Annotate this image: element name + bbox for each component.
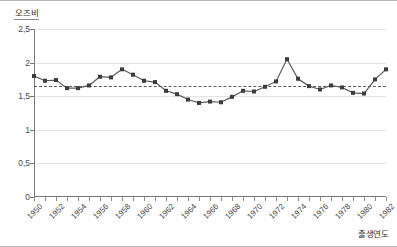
x-tick-mark (100, 197, 101, 201)
x-tick-label: 1952 (47, 202, 66, 221)
data-point-marker (98, 75, 102, 79)
y-tick-label: 2 (25, 58, 30, 68)
x-tick-label: 1962 (157, 202, 176, 221)
x-tick-label: 1968 (223, 202, 242, 221)
x-tick-mark (298, 197, 299, 201)
plot-area: 00,511,522,5 195019521954195619581960196… (34, 29, 386, 197)
data-point-marker (186, 98, 190, 102)
x-tick-mark (56, 197, 57, 201)
x-tick-label: 1960 (135, 202, 154, 221)
x-tick-mark (309, 197, 310, 201)
chart-figure: 오즈비 출생연도 00,511,522,5 195019521954195619… (0, 0, 397, 247)
data-point-marker (54, 78, 58, 82)
x-tick-label: 1972 (267, 202, 286, 221)
x-tick-mark (221, 197, 222, 201)
x-tick-mark (89, 197, 90, 201)
x-tick-mark (353, 197, 354, 201)
data-point-marker (131, 73, 135, 77)
x-tick-mark (320, 197, 321, 201)
data-point-marker (373, 77, 377, 81)
data-point-marker (329, 83, 333, 87)
x-tick-mark (210, 197, 211, 201)
x-tick-mark (188, 197, 189, 201)
x-tick-mark (133, 197, 134, 201)
x-axis-title: 출생연도 (358, 227, 389, 239)
x-tick-mark (331, 197, 332, 201)
y-tick-label: 2,5 (18, 24, 30, 34)
data-point-marker (307, 84, 311, 88)
x-tick-mark (287, 197, 288, 201)
x-tick-label: 1978 (333, 202, 352, 221)
data-point-marker (318, 87, 322, 91)
x-tick-mark (342, 197, 343, 201)
data-series (34, 29, 386, 197)
x-tick-label: 1976 (311, 202, 330, 221)
data-point-marker (120, 67, 124, 71)
x-tick-mark (34, 197, 35, 201)
data-point-marker (351, 91, 355, 95)
x-tick-label: 1966 (201, 202, 220, 221)
x-tick-mark (67, 197, 68, 201)
data-point-marker (87, 83, 91, 87)
x-tick-mark (122, 197, 123, 201)
data-point-marker (274, 79, 278, 83)
x-tick-mark (232, 197, 233, 201)
data-point-marker (142, 79, 146, 83)
data-point-marker (241, 89, 245, 93)
data-point-marker (219, 100, 223, 104)
data-point-marker (197, 101, 201, 105)
x-tick-label: 1956 (91, 202, 110, 221)
data-point-marker (175, 92, 179, 96)
y-tick-label: 1,5 (18, 91, 30, 101)
data-point-marker (384, 67, 388, 71)
x-tick-mark (243, 197, 244, 201)
x-tick-label: 1958 (113, 202, 132, 221)
x-tick-mark (78, 197, 79, 201)
data-point-marker (340, 85, 344, 89)
data-point-marker (208, 100, 212, 104)
x-tick-mark (364, 197, 365, 201)
x-tick-label: 1982 (377, 202, 396, 221)
data-point-marker (65, 86, 69, 90)
data-point-marker (285, 57, 289, 61)
data-point-marker (153, 80, 157, 84)
x-tick-mark (386, 197, 387, 201)
x-tick-label: 1974 (289, 202, 308, 221)
data-point-marker (32, 74, 36, 78)
data-point-marker (296, 77, 300, 81)
x-tick-mark (166, 197, 167, 201)
x-tick-label: 1954 (69, 202, 88, 221)
data-point-marker (76, 86, 80, 90)
x-tick-label: 1980 (355, 202, 374, 221)
data-point-marker (109, 75, 113, 79)
data-point-marker (164, 89, 168, 93)
series-line (34, 59, 386, 103)
x-tick-mark (199, 197, 200, 201)
x-tick-label: 1950 (25, 202, 44, 221)
x-tick-mark (265, 197, 266, 201)
x-tick-mark (276, 197, 277, 201)
y-axis-title: 오즈비 (14, 8, 39, 20)
x-tick-mark (375, 197, 376, 201)
data-point-marker (43, 79, 47, 83)
x-tick-mark (144, 197, 145, 201)
y-tick-label: 0,5 (18, 158, 30, 168)
data-point-marker (230, 95, 234, 99)
data-point-marker (362, 92, 366, 96)
x-tick-label: 1964 (179, 202, 198, 221)
x-tick-mark (254, 197, 255, 201)
x-tick-label: 1970 (245, 202, 264, 221)
y-tick-label: 0 (25, 192, 30, 202)
y-tick-label: 1 (25, 125, 30, 135)
x-tick-mark (155, 197, 156, 201)
data-point-marker (252, 90, 256, 94)
x-tick-mark (111, 197, 112, 201)
data-point-marker (263, 85, 267, 89)
x-tick-mark (45, 197, 46, 201)
x-tick-mark (177, 197, 178, 201)
